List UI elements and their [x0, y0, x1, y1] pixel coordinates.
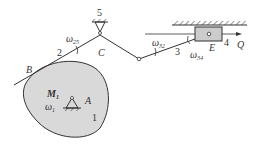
label-4: 4	[224, 37, 229, 48]
joint	[137, 57, 141, 61]
link-c-joint	[100, 35, 139, 59]
label-q: Q	[237, 39, 245, 50]
label-c: C	[98, 47, 105, 58]
slider-ground	[172, 21, 247, 25]
ground-pivot-c	[92, 19, 108, 35]
label-5: 5	[97, 7, 102, 18]
label-w25: ω25	[66, 33, 79, 45]
label-w34: ω34	[190, 49, 203, 61]
cam-link-1	[23, 61, 108, 137]
joint-e	[207, 32, 211, 36]
label-b: B	[26, 64, 32, 75]
label-1: 1	[92, 112, 97, 123]
label-a: A	[84, 95, 92, 106]
label-w32: ω32	[152, 37, 165, 49]
label-3: 3	[175, 46, 180, 57]
arrow-q-icon	[236, 32, 242, 36]
label-2: 2	[57, 47, 62, 58]
label-e: E	[208, 42, 215, 53]
mechanism-diagram: 5 ω25 2 C B M1 ω1 A 1 ω32 3 ω34 E 4 Q	[0, 0, 257, 147]
